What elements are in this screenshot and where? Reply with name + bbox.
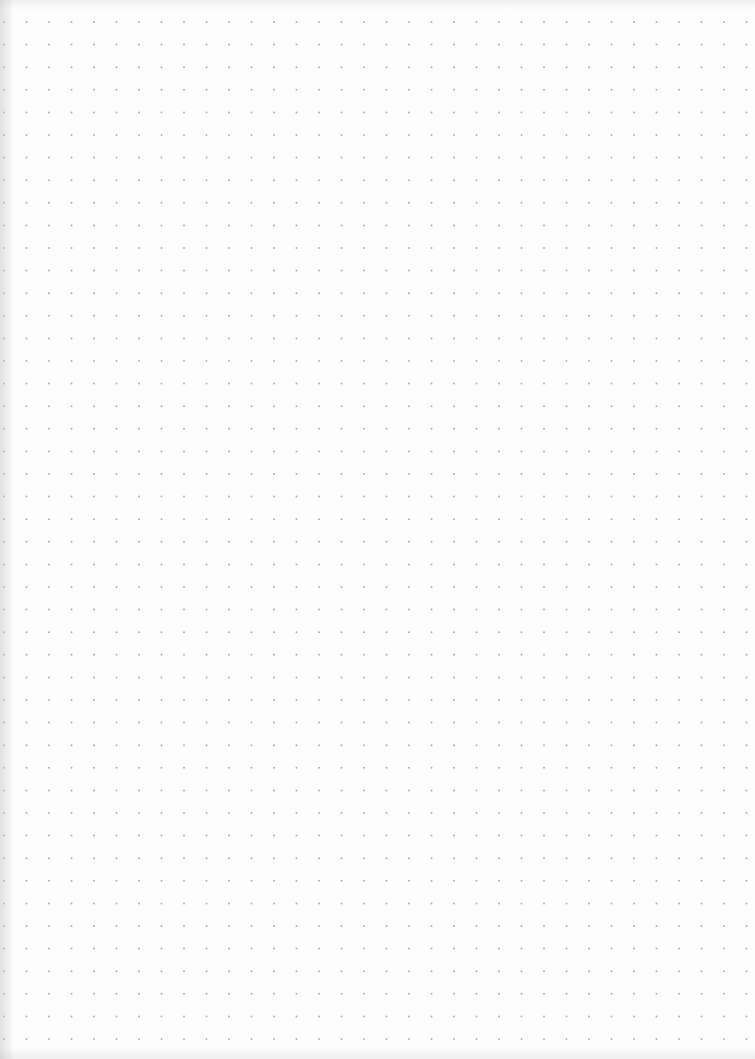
- grid-dot: [723, 383, 725, 385]
- grid-dot: [26, 224, 28, 226]
- grid-dot: [701, 857, 703, 859]
- grid-dot: [318, 66, 320, 68]
- grid-dot: [251, 337, 253, 339]
- grid-dot: [746, 993, 748, 995]
- grid-dot: [296, 202, 298, 204]
- grid-dot: [476, 428, 478, 430]
- grid-dot: [26, 157, 28, 159]
- grid-dot: [26, 428, 28, 430]
- grid-dot: [521, 134, 523, 136]
- grid-dot: [48, 541, 50, 543]
- grid-dot: [206, 563, 208, 565]
- grid-dot: [296, 405, 298, 407]
- grid-dot: [341, 337, 343, 339]
- grid-dot: [251, 880, 253, 882]
- grid-dot: [318, 812, 320, 814]
- grid-dot: [48, 722, 50, 724]
- grid-dot: [723, 337, 725, 339]
- dot-grid-paper: [0, 0, 755, 1059]
- grid-dot: [408, 315, 410, 317]
- grid-dot: [566, 744, 568, 746]
- grid-dot: [138, 428, 140, 430]
- grid-dot: [408, 247, 410, 249]
- grid-dot: [521, 89, 523, 91]
- grid-dot: [678, 586, 680, 588]
- grid-dot: [543, 44, 545, 46]
- grid-dot: [251, 202, 253, 204]
- grid-dot: [611, 948, 613, 950]
- grid-dot: [431, 89, 433, 91]
- grid-dot: [228, 676, 230, 678]
- grid-dot: [251, 970, 253, 972]
- grid-dot: [588, 405, 590, 407]
- grid-dot: [498, 496, 500, 498]
- grid-dot: [251, 179, 253, 181]
- grid-dot: [611, 66, 613, 68]
- grid-dot: [273, 1038, 275, 1040]
- dot-grid-pattern: [0, 0, 755, 1059]
- grid-dot: [341, 518, 343, 520]
- grid-dot: [611, 857, 613, 859]
- grid-dot: [386, 360, 388, 362]
- grid-dot: [498, 948, 500, 950]
- grid-dot: [408, 44, 410, 46]
- grid-dot: [611, 247, 613, 249]
- grid-dot: [543, 337, 545, 339]
- grid-dot: [408, 925, 410, 927]
- grid-dot: [341, 970, 343, 972]
- grid-dot: [453, 315, 455, 317]
- grid-dot: [656, 722, 658, 724]
- grid-dot: [341, 157, 343, 159]
- grid-dot: [93, 586, 95, 588]
- grid-dot: [183, 315, 185, 317]
- grid-dot: [363, 1038, 365, 1040]
- grid-dot: [678, 1015, 680, 1017]
- grid-dot: [138, 179, 140, 181]
- grid-dot: [251, 292, 253, 294]
- grid-dot: [723, 880, 725, 882]
- grid-dot: [251, 1038, 253, 1040]
- grid-dot: [386, 993, 388, 995]
- grid-dot: [431, 315, 433, 317]
- grid-dot: [431, 835, 433, 837]
- grid-dot: [566, 89, 568, 91]
- grid-dot: [476, 66, 478, 68]
- grid-dot: [588, 812, 590, 814]
- grid-dot: [543, 948, 545, 950]
- grid-dot: [656, 405, 658, 407]
- grid-dot: [408, 270, 410, 272]
- grid-dot: [498, 563, 500, 565]
- grid-dot: [701, 925, 703, 927]
- grid-dot: [296, 292, 298, 294]
- grid-dot: [498, 789, 500, 791]
- grid-dot: [116, 948, 118, 950]
- grid-dot: [296, 134, 298, 136]
- grid-dot: [453, 541, 455, 543]
- grid-dot: [746, 134, 748, 136]
- grid-dot: [498, 541, 500, 543]
- grid-dot: [408, 518, 410, 520]
- grid-dot: [251, 631, 253, 633]
- grid-dot: [71, 44, 73, 46]
- grid-dot: [296, 21, 298, 23]
- grid-dot: [93, 970, 95, 972]
- grid-dot: [71, 518, 73, 520]
- grid-dot: [26, 880, 28, 882]
- grid-dot: [723, 631, 725, 633]
- grid-dot: [476, 586, 478, 588]
- grid-dot: [93, 609, 95, 611]
- grid-dot: [228, 609, 230, 611]
- grid-dot: [476, 337, 478, 339]
- grid-dot: [746, 857, 748, 859]
- grid-dot: [71, 111, 73, 113]
- grid-dot: [161, 360, 163, 362]
- grid-dot: [183, 496, 185, 498]
- grid-dot: [701, 405, 703, 407]
- grid-dot: [611, 902, 613, 904]
- grid-dot: [476, 563, 478, 565]
- grid-dot: [611, 631, 613, 633]
- grid-dot: [453, 134, 455, 136]
- grid-dot: [678, 111, 680, 113]
- grid-dot: [476, 247, 478, 249]
- grid-dot: [341, 812, 343, 814]
